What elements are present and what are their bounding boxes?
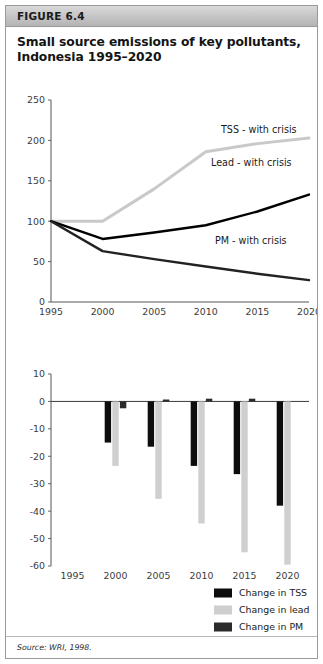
line-chart-xtick-label: 2005 (142, 306, 166, 317)
bar-2000-series-0 (105, 401, 111, 442)
bar-2015-series-1 (241, 401, 247, 552)
legend-label-0: Change in TSS (239, 587, 307, 598)
line-chart-ytick-label: 200 (27, 135, 45, 146)
bar-chart: 100-10-20-30-40-50-601995200020052010201… (30, 368, 309, 581)
charts-container: 050100150200250199520002005201020152020T… (6, 6, 318, 659)
line-chart-xtick-label: 2000 (91, 306, 115, 317)
legend-swatch-0 (214, 589, 232, 598)
line-chart: 050100150200250199520002005201020152020T… (27, 94, 318, 316)
line-series-0 (51, 138, 309, 221)
bar-chart-ytick-label: 0 (39, 396, 45, 407)
bar-chart-ytick-label: -20 (30, 451, 45, 462)
bar-chart-xtick-label: 2015 (233, 570, 257, 581)
line-chart-ytick-label: 50 (33, 256, 45, 267)
figure-svg: 050100150200250199520002005201020152020T… (6, 6, 318, 659)
line-series-1 (51, 195, 309, 239)
bar-chart-ytick-label: -30 (30, 478, 45, 489)
legend-label-2: Change in PM (239, 621, 303, 632)
bar-2015-series-2 (249, 399, 255, 402)
bar-2005-series-1 (155, 401, 161, 498)
bar-2010-series-1 (198, 401, 204, 523)
legend-swatch-1 (214, 606, 232, 615)
source-note: Source: WRI, 1998. (17, 643, 92, 652)
bar-chart-xtick-label: 1995 (61, 570, 85, 581)
line-chart-xtick-label: 2020 (297, 306, 318, 317)
bar-2020-series-0 (277, 401, 283, 505)
bar-chart-xtick-label: 2005 (147, 570, 171, 581)
bar-2010-series-0 (191, 401, 197, 465)
legend-swatch-2 (214, 623, 232, 632)
line-series-label-1: Lead - with crisis (211, 157, 292, 168)
line-series-label-0: TSS - with crisis (220, 124, 297, 135)
line-chart-ytick-label: 150 (27, 175, 45, 186)
bar-2000-series-1 (112, 401, 118, 465)
bar-2005-series-0 (148, 401, 154, 446)
bar-chart-legend: Change in TSSChange in leadChange in PM (214, 587, 310, 632)
bar-chart-xtick-label: 2020 (276, 570, 300, 581)
bar-2005-series-2 (163, 400, 169, 402)
line-series-label-2: PM - with crisis (215, 235, 287, 246)
bar-2020-series-1 (284, 401, 290, 564)
bar-chart-ytick-label: -40 (30, 506, 45, 517)
bar-chart-ytick-label: -50 (30, 533, 45, 544)
line-chart-xtick-label: 2010 (194, 306, 218, 317)
source-divider (6, 636, 318, 637)
bar-chart-ytick-label: 10 (33, 368, 45, 379)
line-chart-xtick-label: 2015 (245, 306, 269, 317)
line-chart-ytick-label: 100 (27, 216, 45, 227)
legend-label-1: Change in lead (239, 604, 310, 615)
figure-card: FIGURE 6.4 Small source emissions of key… (5, 5, 318, 659)
line-chart-ytick-label: 250 (27, 94, 45, 105)
line-chart-xtick-label: 1995 (39, 306, 63, 317)
bar-2015-series-0 (234, 401, 240, 474)
bar-2010-series-2 (206, 399, 212, 402)
bar-chart-xtick-label: 2000 (104, 570, 128, 581)
bar-chart-ytick-label: -10 (30, 423, 45, 434)
bar-chart-xtick-label: 2010 (190, 570, 214, 581)
bar-chart-ytick-label: -60 (30, 560, 45, 571)
bar-2000-series-2 (120, 401, 126, 408)
